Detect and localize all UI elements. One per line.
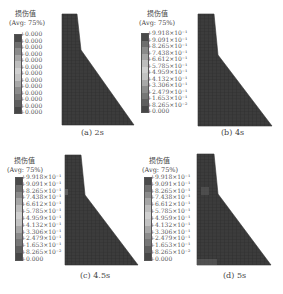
caption: (a) 2s <box>81 128 104 137</box>
dam-contour <box>141 147 282 294</box>
caption: (d) 5s <box>223 271 246 280</box>
caption: (c) 4.5s <box>80 271 110 280</box>
panel-d: 损伤值 (Avg: 75%) +9.918×10⁻¹+9.091×10⁻¹+8.… <box>141 147 282 294</box>
dam-contour <box>0 0 141 147</box>
dam-contour <box>141 0 282 147</box>
panel-a: 损伤值 (Avg: 75%) +0.000+0.000+0.000+0.000+… <box>0 0 141 147</box>
caption: (b) 4s <box>221 128 244 137</box>
dam-contour <box>0 147 141 294</box>
panel-c: 损伤值 (Avg: 75%) +9.918×10⁻¹+9.091×10⁻¹+8.… <box>0 147 141 294</box>
panel-b: 损伤值 (Avg: 75%) +9.918×10⁻¹+9.091×10⁻¹+8.… <box>141 0 282 147</box>
